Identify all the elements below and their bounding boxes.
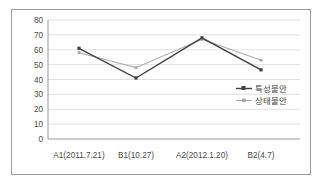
y-tick-label: 10 [34, 120, 44, 129]
series-trait-anxiety [79, 38, 261, 78]
series-line-trait-anxiety [79, 38, 261, 78]
data-point-marker [78, 51, 81, 54]
x-axis-tick-labels: A1(2011.7.21) B1(10.27) A2(2012.1.20) B2… [53, 151, 274, 160]
data-point-marker [135, 66, 138, 69]
legend-marker-icon [242, 86, 246, 90]
y-tick-label: 40 [34, 76, 44, 85]
y-tick-label: 60 [34, 46, 44, 55]
legend-entry-state-anxiety[interactable]: 상태불안 [236, 96, 287, 106]
data-point-marker [259, 68, 262, 71]
gridlines [48, 20, 300, 124]
line-chart-svg: 80 70 60 50 40 30 20 10 0 A1(2011.7.21) … [12, 10, 310, 174]
x-tick-label: B2(4.7) [248, 151, 275, 160]
data-point-marker [260, 59, 263, 62]
series-state-anxiety [79, 39, 261, 67]
y-tick-label: 80 [34, 16, 44, 25]
legend-marker-icon [242, 99, 246, 103]
data-point-marker [77, 47, 80, 50]
legend-entry-trait-anxiety[interactable]: 특성불안 [236, 84, 287, 94]
x-tick-label: A2(2012.1.20) [176, 151, 228, 160]
y-tick-label: 20 [34, 105, 44, 114]
x-tick-label: B1(10.27) [118, 151, 154, 160]
y-tick-label: 30 [34, 90, 44, 99]
x-tick-label: A1(2011.7.21) [53, 151, 105, 160]
y-tick-label: 50 [34, 61, 44, 70]
series-line-state-anxiety [79, 39, 261, 67]
legend-label: 특성불안 [255, 84, 287, 94]
y-tick-label: 0 [38, 135, 43, 144]
legend-label: 상태불안 [255, 96, 287, 106]
data-point-marker [200, 36, 203, 39]
y-tick-label: 70 [34, 31, 44, 40]
data-point-marker [134, 76, 137, 79]
chart-frame: 80 70 60 50 40 30 20 10 0 A1(2011.7.21) … [11, 9, 311, 175]
y-axis-tick-labels: 80 70 60 50 40 30 20 10 0 [34, 16, 44, 144]
chart-plot-area: 80 70 60 50 40 30 20 10 0 A1(2011.7.21) … [12, 10, 310, 174]
